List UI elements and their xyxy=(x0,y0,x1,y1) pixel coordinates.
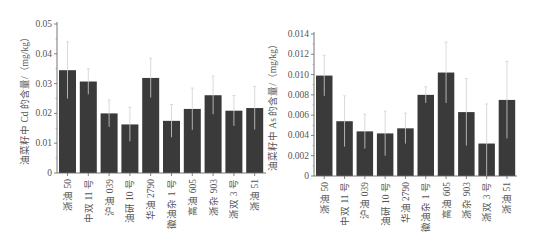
x-tick-label: 浙油 51 xyxy=(249,179,260,211)
y-tick-label: 0.004 xyxy=(288,130,310,140)
bar-group xyxy=(184,88,201,173)
bar-group xyxy=(458,79,475,176)
x-tick-label: 沪油 039 xyxy=(359,182,370,219)
x-tick-label: 高油 605 xyxy=(187,179,198,216)
y-tick-label: 0.01 xyxy=(35,138,52,148)
as-content-chart: 浙油 50中双 11 号沪油 039油研 10 号华油 2790徽油杂 1 号高… xyxy=(267,29,517,232)
charts-figure: 浙油 50中双 11 号沪油 039油研 10 号华油 2790徽油杂 1 号高… xyxy=(0,0,534,243)
bar-group xyxy=(316,55,333,176)
y-tick-label: 0.03 xyxy=(35,79,52,89)
cd-content-chart: 浙油 50中双 11 号沪油 039油研 10 号华油 2790徽油杂 1 号高… xyxy=(19,19,266,229)
y-tick-label: 0.04 xyxy=(35,49,52,59)
y-tick-label: 0.05 xyxy=(35,19,52,29)
x-tick-label: 中双 11 号 xyxy=(339,182,350,226)
x-tick-label: 浙杂 903 xyxy=(208,179,219,216)
x-tick-label: 高油 605 xyxy=(441,182,452,219)
y-tick-label: 0.012 xyxy=(288,49,310,59)
bar-group xyxy=(101,100,118,173)
x-tick-label: 油研 10 号 xyxy=(380,182,391,226)
bar xyxy=(418,95,435,176)
x-tick-label: 浙油 50 xyxy=(62,179,73,211)
bar-group xyxy=(418,87,435,176)
x-tick-label: 中双 11 号 xyxy=(83,179,94,223)
y-tick-label: 0.02 xyxy=(35,108,52,118)
y-tick-label: 0.002 xyxy=(288,151,310,161)
bar-group xyxy=(80,69,97,173)
bar-group xyxy=(246,87,263,173)
bar-group xyxy=(478,104,495,176)
y-tick-label: 0.014 xyxy=(288,29,310,39)
y-axis-label: 油菜籽中 Cd 的含量/（mg/kg） xyxy=(19,32,30,165)
x-tick-label: 浙油 51 xyxy=(501,182,512,214)
y-tick-label: 0.006 xyxy=(288,110,310,120)
x-tick-label: 华油 2790 xyxy=(145,179,156,221)
y-axis-label: 油菜籽中 As 的含量/（mg/kg） xyxy=(267,39,278,171)
bar-group xyxy=(163,104,180,173)
bar-group xyxy=(205,76,222,173)
y-tick-label: 0.008 xyxy=(288,90,310,100)
bar xyxy=(80,82,97,173)
x-tick-label: 沪油 039 xyxy=(104,179,115,216)
bar-group xyxy=(377,111,394,176)
x-tick-label: 油研 10 号 xyxy=(124,179,135,223)
bar-group xyxy=(142,58,159,173)
x-tick-label: 徽油杂 1 号 xyxy=(420,182,431,232)
y-tick-label: 0 xyxy=(304,171,309,181)
x-tick-label: 浙双 3 号 xyxy=(228,179,239,219)
x-tick-label: 徽油杂 1 号 xyxy=(166,179,177,229)
bar-group xyxy=(336,96,353,176)
y-tick-label: 0 xyxy=(47,168,52,178)
bar-group xyxy=(121,107,138,173)
x-tick-label: 浙油 50 xyxy=(319,182,330,214)
x-tick-label: 华油 2790 xyxy=(400,182,411,224)
bar-group xyxy=(438,42,455,176)
bar-group xyxy=(225,96,242,173)
x-tick-label: 浙双 3 号 xyxy=(481,182,492,222)
bar-group xyxy=(397,113,414,176)
bar-group xyxy=(357,114,374,176)
bar-group xyxy=(59,42,76,173)
x-tick-label: 浙杂 903 xyxy=(461,182,472,219)
bar-group xyxy=(499,61,516,176)
y-tick-label: 0.010 xyxy=(288,70,310,80)
